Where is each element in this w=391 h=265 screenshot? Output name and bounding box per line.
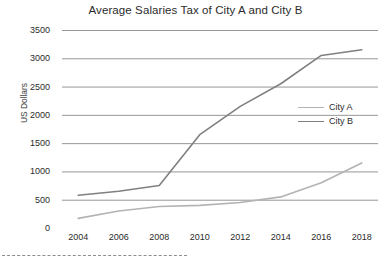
x-tick-label: 2010 <box>190 232 210 242</box>
data-series-lines <box>78 50 362 219</box>
x-tick-label: 2014 <box>271 232 291 242</box>
chart-figure: Average Salaries Tax of City A and City … <box>0 0 391 265</box>
x-tick-label: 2012 <box>230 232 250 242</box>
plot-area <box>62 30 378 228</box>
y-tick-label: 2000 <box>30 110 50 120</box>
x-axis-tick-labels: 20042006200820102012201420162018 <box>0 232 391 246</box>
y-tick-label: 2500 <box>30 82 50 92</box>
x-tick-label: 2004 <box>68 232 88 242</box>
y-tick-label: 1000 <box>30 166 50 176</box>
legend-swatch-city-a <box>298 107 324 108</box>
y-tick-label: 3000 <box>30 53 50 63</box>
legend-label-city-b: City B <box>329 116 353 126</box>
plot-svg <box>62 30 378 228</box>
x-tick-label: 2008 <box>149 232 169 242</box>
y-tick-label: 1500 <box>30 138 50 148</box>
x-tick-label: 2006 <box>109 232 129 242</box>
legend-label-city-a: City A <box>329 102 353 112</box>
legend-item-city-a: City A <box>298 100 384 114</box>
y-axis-tick-labels: 0500100015002000250030003500 <box>0 0 58 265</box>
x-tick-label: 2016 <box>311 232 331 242</box>
x-tick-label: 2018 <box>352 232 372 242</box>
y-tick-label: 3500 <box>30 25 50 35</box>
gridlines <box>62 31 378 229</box>
y-tick-label: 500 <box>35 195 50 205</box>
chart-legend: City A City B <box>298 100 384 128</box>
legend-item-city-b: City B <box>298 114 384 128</box>
legend-swatch-city-b <box>298 121 324 122</box>
bottom-dashed-divider <box>2 255 187 256</box>
chart-title: Average Salaries Tax of City A and City … <box>0 4 391 16</box>
